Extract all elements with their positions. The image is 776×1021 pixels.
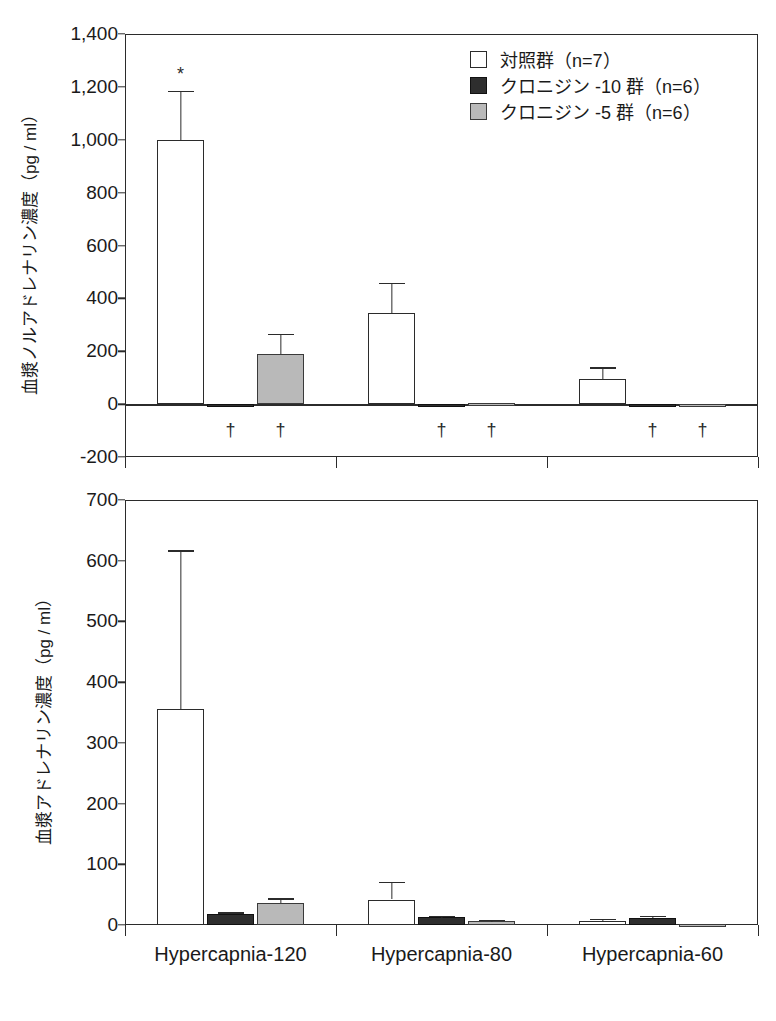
x-group-tick — [336, 457, 337, 468]
significance-marker-asterisk: * — [177, 65, 184, 83]
y-tick-label: 1,000 — [18, 129, 125, 151]
error-bar-stem — [280, 334, 281, 354]
bar-c10 — [207, 914, 254, 925]
error-bar-c10 — [207, 912, 254, 914]
plot-area-adrenaline — [125, 500, 758, 925]
y-tick-label: 300 — [18, 732, 125, 754]
bar-control — [579, 921, 626, 925]
x-axis-label-group: Hypercapnia-60 — [582, 943, 723, 966]
figure-root: 血漿ノルアドレナリン濃度（pg / ml） 1,4001,2001,000800… — [0, 0, 776, 1021]
error-bar-cap — [218, 912, 244, 913]
y-tick-mark — [118, 924, 125, 925]
y-tick-label: 800 — [18, 182, 125, 204]
y-tick-label: 1,400 — [18, 23, 125, 45]
error-bar-cap — [268, 898, 294, 899]
error-bar-control — [157, 550, 204, 709]
significance-marker-dagger: † — [275, 421, 285, 439]
y-tick-mark — [118, 403, 125, 404]
bar-c5 — [468, 403, 515, 406]
y-tick-label: 200 — [18, 793, 125, 815]
y-tick-mark — [118, 742, 125, 743]
x-group-tick — [547, 457, 548, 468]
y-tick-mark — [118, 139, 125, 140]
y-tick-mark — [118, 681, 125, 682]
y-tick-mark — [118, 621, 125, 622]
y-tick-label: 0 — [18, 914, 125, 936]
bar-c10 — [629, 918, 676, 925]
gray-square-icon — [470, 103, 487, 120]
error-bar-control — [579, 367, 626, 379]
error-bar-c5 — [257, 334, 304, 354]
bar-c5 — [679, 924, 726, 927]
y-tick-mark — [118, 560, 125, 561]
bar-c5 — [257, 903, 304, 925]
chart-adrenaline: 血漿アドレナリン濃度（pg / ml） 70060050040030020010… — [0, 480, 776, 1021]
bar-c5 — [679, 404, 726, 407]
bar-c10 — [207, 404, 254, 407]
error-bar-cap — [590, 367, 616, 368]
error-bar-cap — [379, 283, 405, 284]
legend-label-c10: クロニジン -10 群（n=6） — [500, 72, 711, 98]
bar-c10 — [418, 404, 465, 407]
error-bar-stem — [391, 283, 392, 313]
error-bar-cap — [640, 916, 666, 917]
bar-c10 — [418, 917, 465, 925]
y-tick-mark — [118, 803, 125, 804]
legend-item-c5: クロニジン -5 群（n=6） — [470, 98, 711, 124]
error-bar-control — [157, 91, 204, 140]
error-bar-cap — [479, 920, 505, 921]
y-tick-mark — [118, 33, 125, 34]
x-axis-label-group: Hypercapnia-80 — [371, 943, 512, 966]
y-tick-mark — [118, 864, 125, 865]
y-tick-mark — [118, 86, 125, 87]
y-tick-label: 400 — [18, 287, 125, 309]
x-group-tick — [125, 457, 126, 468]
x-axis-label-group: Hypercapnia-120 — [154, 943, 306, 966]
legend-label-control: 対照群（n=7） — [500, 46, 621, 72]
y-tick-mark — [118, 456, 125, 457]
y-tick-label: 400 — [18, 671, 125, 693]
significance-marker-dagger: † — [225, 421, 235, 439]
x-group-tick — [758, 925, 759, 936]
bar-control — [157, 709, 204, 925]
y-tick-label: 600 — [18, 550, 125, 572]
error-bar-cap — [379, 882, 405, 883]
bar-control — [368, 313, 415, 404]
error-bar-stem — [602, 367, 603, 379]
error-bar-cap — [268, 334, 294, 335]
y-tick-label: 600 — [18, 235, 125, 257]
x-group-tick — [547, 925, 548, 936]
white-square-icon — [470, 51, 487, 68]
y-tick-label: 700 — [18, 489, 125, 511]
error-bar-control — [368, 882, 415, 900]
significance-marker-dagger: † — [436, 421, 446, 439]
y-tick-label: -200 — [18, 446, 125, 468]
error-bar-cap — [168, 550, 194, 551]
legend-label-c5: クロニジン -5 群（n=6） — [500, 98, 701, 124]
bar-control — [157, 140, 204, 404]
y-tick-label: 1,200 — [18, 76, 125, 98]
error-bar-control — [368, 283, 415, 313]
significance-marker-dagger: † — [486, 421, 496, 439]
error-bar-cap — [429, 916, 455, 917]
error-bar-stem — [180, 91, 181, 140]
error-bar-c5 — [468, 920, 515, 922]
legend: 対照群（n=7）クロニジン -10 群（n=6）クロニジン -5 群（n=6） — [470, 46, 711, 124]
x-group-tick — [758, 457, 759, 468]
bar-c5 — [257, 354, 304, 404]
y-tick-mark — [118, 245, 125, 246]
chart-noradrenaline: 血漿ノルアドレナリン濃度（pg / ml） 1,4001,2001,000800… — [0, 0, 776, 480]
y-tick-label: 500 — [18, 610, 125, 632]
error-bar-control — [579, 919, 626, 921]
bar-c10 — [629, 404, 676, 407]
y-tick-mark — [118, 499, 125, 500]
error-bar-c10 — [418, 916, 465, 918]
y-tick-label: 0 — [18, 393, 125, 415]
significance-marker-dagger: † — [697, 421, 707, 439]
error-bar-cap — [590, 919, 616, 920]
legend-item-c10: クロニジン -10 群（n=6） — [470, 72, 711, 98]
y-tick-mark — [118, 192, 125, 193]
black-square-icon — [470, 77, 487, 94]
y-tick-mark — [118, 351, 125, 352]
error-bar-c5 — [257, 898, 304, 903]
